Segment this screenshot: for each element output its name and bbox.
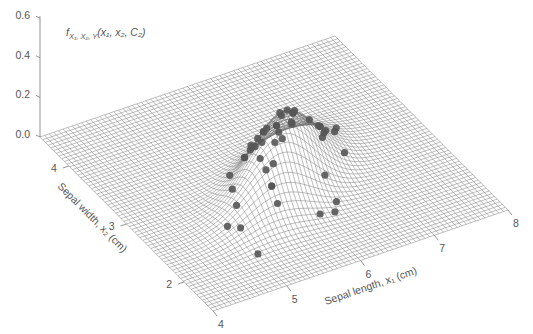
surface-grid-lines — [40, 36, 508, 311]
sample-point — [229, 186, 236, 193]
x-tick-label: 7 — [439, 242, 445, 254]
sample-point — [322, 127, 329, 134]
sample-point — [257, 155, 264, 162]
z-axis: 0.00.20.40.6 — [15, 9, 40, 140]
x-tick-label: 8 — [513, 217, 519, 229]
sample-point — [237, 224, 244, 231]
sample-point — [288, 119, 295, 126]
z-label-args: (x₁, x₂, C₂) — [97, 26, 145, 38]
sample-point — [331, 128, 338, 135]
z-tick-label: 0.0 — [15, 128, 30, 140]
sample-point — [224, 223, 231, 230]
x-tick-label: 4 — [218, 318, 224, 330]
sample-point — [262, 166, 269, 173]
sample-point — [233, 202, 240, 209]
z-label-sub: X₁, X₂, Y — [68, 32, 98, 41]
sample-point — [316, 123, 323, 130]
sample-point — [254, 250, 261, 257]
sample-point — [248, 144, 255, 151]
sample-point — [279, 135, 286, 142]
density-surface-mesh — [40, 36, 508, 311]
x-tick-label: 5 — [292, 293, 298, 305]
sample-point — [341, 149, 348, 156]
z-tick-label: 0.4 — [15, 49, 30, 61]
sample-point — [241, 154, 248, 161]
sample-point — [270, 160, 277, 167]
sample-point — [268, 183, 275, 190]
y-axis-title: Sepal width, x₂ (cm) — [56, 180, 131, 255]
sample-point — [291, 107, 298, 114]
sample-point — [275, 129, 282, 136]
z-tick-label: 0.6 — [15, 9, 30, 21]
sample-point — [317, 210, 324, 217]
sample-point — [260, 128, 267, 135]
z-tick-label: 0.2 — [15, 88, 30, 100]
sample-point — [306, 116, 313, 123]
sample-point — [271, 139, 278, 146]
density-surface-chart: 0.00.20.40.6 45678 234 fX₁, X₂, Y(x₁, x₂… — [0, 0, 533, 334]
sample-point — [254, 135, 261, 142]
x-axis-sepal-length: 45678 — [213, 210, 519, 330]
z-axis-label: fX₁, X₂, Y(x₁, x₂, C₂) — [66, 26, 145, 41]
sample-point — [226, 172, 233, 179]
svg-text:fX₁, X₂, Y(x₁, x₂, C₂): fX₁, X₂, Y(x₁, x₂, C₂) — [66, 26, 145, 41]
sample-point — [274, 200, 281, 207]
sample-point — [333, 198, 340, 205]
sample-point — [273, 122, 280, 129]
sample-point — [331, 208, 338, 215]
sample-point — [321, 172, 328, 179]
y-tick-label: 4 — [51, 162, 57, 174]
sample-point — [278, 112, 285, 119]
x-tick-label: 6 — [366, 268, 372, 280]
y-tick-label: 2 — [166, 278, 172, 290]
